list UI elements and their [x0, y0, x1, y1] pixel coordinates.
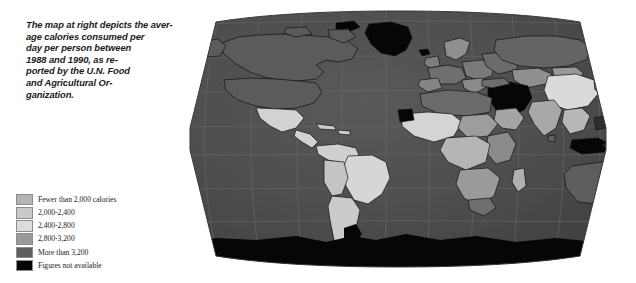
island-hispaniola: [338, 130, 350, 135]
legend-swatch-2400-2800: [16, 220, 33, 232]
world-map-svg: [176, 10, 620, 268]
legend-item: Fewer than 2,000 calories: [16, 193, 116, 206]
caption-line: day per person between: [26, 42, 178, 54]
legend-label: More than 3,200: [38, 249, 88, 257]
world-map: [176, 10, 620, 268]
caption-line: 1988 and 1990, as re-: [26, 54, 178, 66]
map-legend: Fewer than 2,000 calories 2,000-2,400 2,…: [16, 193, 116, 272]
caption-line: The map at right depicts the aver-: [26, 19, 178, 31]
legend-swatch-more-than-3200: [16, 247, 33, 259]
legend-swatch-2000-2400: [16, 207, 33, 219]
legend-item: 2,400-2,800: [16, 219, 116, 232]
legend-swatch-2800-3200: [16, 233, 33, 245]
caption-line: ganization.: [26, 89, 178, 101]
caption-line: ported by the U.N. Food: [26, 65, 178, 77]
legend-swatch-not-available: [16, 260, 33, 272]
map-ocean: [176, 10, 620, 268]
legend-label: Figures not available: [38, 262, 102, 270]
legend-swatch-fewer-than-2000: [16, 194, 33, 206]
legend-label: 2,400-2,800: [38, 222, 75, 230]
legend-item: More than 3,200: [16, 246, 116, 259]
country-mauritania-no-data: [398, 109, 414, 122]
region-philippines: [594, 116, 606, 130]
legend-item: 2,800-3,200: [16, 233, 116, 246]
map-caption: The map at right depicts the aver- age c…: [26, 19, 178, 100]
caption-line: and Agricultural Or-: [26, 77, 178, 89]
caption-line: age calories consumed per: [26, 31, 178, 43]
legend-label: 2,800-3,200: [38, 235, 75, 243]
legend-label: 2,000-2,400: [38, 209, 75, 217]
legend-item: Figures not available: [16, 259, 116, 272]
legend-label: Fewer than 2,000 calories: [38, 196, 116, 204]
island-sri-lanka: [548, 135, 555, 142]
country-japan: [600, 74, 616, 92]
legend-item: 2,000-2,400: [16, 206, 116, 219]
